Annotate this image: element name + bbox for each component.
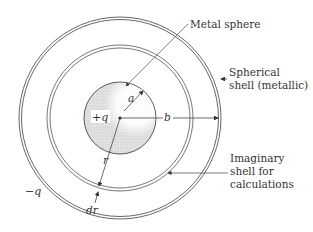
metal-sphere-label: Metal sphere: [190, 18, 260, 30]
capacitor-diagram: Metal sphere Spherical shell (metallic) …: [0, 0, 313, 232]
dr-arrow: [95, 192, 98, 203]
metal-sphere-leader: [126, 24, 188, 86]
imaginary-shell-label-2: shell for: [230, 165, 275, 177]
imaginary-shell-label-3: calculations: [230, 178, 294, 190]
minus-q-label: −q: [25, 185, 41, 198]
spherical-shell-label-2: shell (metallic): [229, 79, 308, 91]
b-label: b: [164, 111, 171, 123]
a-label: a: [128, 92, 134, 104]
spherical-shell-label-1: Spherical: [229, 66, 280, 78]
plus-q-label: +q: [92, 111, 108, 124]
dr-label: dr: [86, 204, 99, 216]
imaginary-shell-label-1: Imaginary: [230, 152, 284, 164]
